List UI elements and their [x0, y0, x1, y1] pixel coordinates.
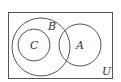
set-b-label: B: [47, 20, 56, 33]
universe-label: U: [102, 65, 112, 78]
venn-diagram: B C A U: [0, 0, 121, 82]
set-b-circle: [12, 18, 70, 76]
set-c-label: C: [30, 39, 39, 52]
set-a-label: A: [75, 39, 84, 52]
